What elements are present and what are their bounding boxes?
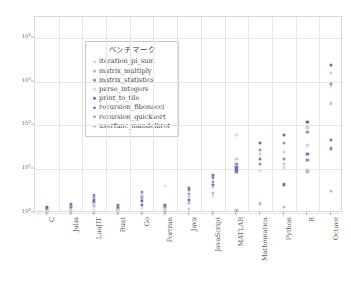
data-point	[282, 158, 285, 161]
data-point	[306, 171, 309, 174]
legend-marker-icon	[91, 85, 99, 94]
legend-item[interactable]: matrix_multiply	[91, 66, 173, 75]
legend-item[interactable]: iteration_pi_sum	[91, 57, 173, 66]
data-point	[330, 71, 333, 74]
gridline-vertical	[296, 17, 297, 211]
x-tick-label: JavaScript	[212, 182, 219, 217]
gridline-vertical	[248, 17, 249, 211]
data-point	[282, 150, 285, 153]
data-point	[258, 163, 261, 166]
plot-area: ベンチマーク iteration_pi_summatrix_multiplyma…	[34, 16, 342, 212]
legend-marker-icon	[91, 76, 99, 85]
gridline-vertical	[177, 17, 178, 211]
data-point	[330, 102, 333, 105]
data-point	[306, 126, 309, 129]
legend-marker-icon	[91, 94, 99, 103]
x-tick-label: Octave	[330, 194, 337, 217]
legend-item-label: iteration_pi_sum	[99, 58, 155, 65]
data-point	[235, 134, 238, 137]
x-axis: CJuliaLuaJITRustGoFortranJavaJavaScriptM…	[34, 214, 342, 292]
gridline-vertical	[130, 17, 131, 211]
gridline-vertical	[272, 17, 273, 211]
y-tick-label: 100	[22, 209, 31, 214]
data-point	[330, 139, 333, 142]
data-point	[282, 183, 285, 186]
data-point	[258, 158, 261, 161]
data-point	[164, 184, 167, 187]
data-point	[306, 153, 309, 156]
y-tick-label: 102	[22, 122, 31, 127]
y-tick-label: 104	[22, 34, 31, 39]
data-point	[306, 144, 309, 147]
legend-item[interactable]: matrix_statistics	[91, 76, 173, 85]
data-point	[258, 148, 261, 151]
legend-item[interactable]: recursion_fibonacci	[91, 103, 173, 112]
data-point	[330, 147, 333, 150]
data-point	[235, 163, 238, 166]
data-point	[306, 159, 309, 162]
x-tick-label: LuaJIT	[93, 195, 100, 217]
x-tick-label: Go	[141, 208, 148, 217]
data-point	[330, 63, 333, 66]
x-tick-label: Python	[283, 194, 290, 217]
x-tick-label: Fortran	[164, 192, 171, 217]
legend-title: ベンチマーク	[91, 46, 173, 54]
legend-item-label: recursion_fibonacci	[99, 104, 164, 111]
data-point	[282, 134, 285, 137]
data-point	[282, 141, 285, 144]
y-tick-label: 103	[22, 78, 31, 83]
gridline-vertical	[319, 17, 320, 211]
benchmark-scatter-figure: 100101102103104 ベンチマーク iteration_pi_summ…	[0, 0, 351, 293]
gridline-vertical	[225, 17, 226, 211]
data-point	[140, 199, 143, 202]
legend-item-label: print_to_tile	[99, 95, 139, 102]
x-tick-label: MATLAB	[235, 187, 242, 217]
legend-marker-icon	[91, 57, 99, 66]
legend-marker-icon	[91, 103, 99, 112]
x-tick-label: Mathematica	[259, 173, 266, 217]
data-point	[235, 158, 238, 161]
gridline-vertical	[106, 17, 107, 211]
legend-item[interactable]: recursion_quicksort	[91, 112, 173, 121]
gridline-vertical	[82, 17, 83, 211]
data-point	[306, 131, 309, 134]
legend-item[interactable]: parse_integers	[91, 85, 173, 94]
legend-item[interactable]: print_to_tile	[91, 94, 173, 103]
gridline-vertical	[59, 17, 60, 211]
gridline-vertical	[153, 17, 154, 211]
data-point	[258, 153, 261, 156]
legend-items: iteration_pi_summatrix_multiplymatrix_st…	[91, 57, 173, 131]
gridline-vertical	[201, 17, 202, 211]
data-point	[306, 120, 309, 123]
x-tick-label: C	[46, 212, 53, 217]
legend-item-label: recursion_quicksort	[99, 114, 166, 121]
y-axis: 100101102103104	[0, 16, 31, 212]
data-point	[330, 189, 333, 192]
data-point	[258, 141, 261, 144]
x-tick-label: R	[306, 212, 313, 217]
x-tick-label: Java	[188, 203, 195, 217]
legend[interactable]: ベンチマーク iteration_pi_summatrix_multiplyma…	[85, 41, 179, 137]
legend-marker-icon	[91, 112, 99, 121]
legend-marker-icon	[91, 66, 99, 75]
y-tick-label: 101	[22, 166, 31, 171]
data-point	[211, 176, 214, 179]
x-tick-label: Julia	[70, 202, 77, 217]
x-tick-label: Rust	[117, 202, 124, 217]
